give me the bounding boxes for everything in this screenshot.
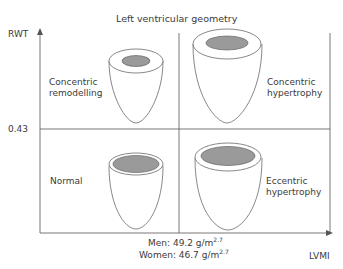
cavity — [201, 147, 255, 166]
x-threshold-men: Men: 49.2 g/m2.7 — [148, 238, 223, 249]
x-axis-arrow — [326, 230, 333, 236]
label-eccentric-hypertrophy: Eccentric hypertrophy — [266, 176, 321, 198]
x-threshold-women: Women: 46.7 g/m2.7 — [139, 250, 229, 261]
cavity — [122, 56, 150, 67]
label-concentric-hypertrophy: Concentric hypertrophy — [267, 77, 322, 99]
label-concentric-remodelling: Concentric remodelling — [49, 77, 102, 99]
y-axis-arrow — [37, 28, 43, 35]
cavity — [113, 156, 159, 173]
diagram-canvas — [0, 0, 343, 269]
heart-concentric-remodelling — [109, 49, 163, 123]
label-normal: Normal — [50, 176, 83, 187]
x-axis-label: LVMI — [309, 251, 330, 262]
cavity — [206, 36, 248, 50]
heart-eccentric-hypertrophy — [195, 143, 262, 230]
heart-normal — [109, 153, 163, 229]
heart-concentric-hypertrophy — [193, 29, 262, 123]
